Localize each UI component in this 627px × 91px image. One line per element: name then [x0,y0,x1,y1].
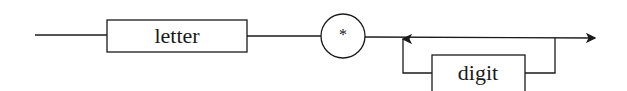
digit-loop-path [403,39,432,73]
star-node: * [321,14,365,58]
syntax-diagram: letter * digit [0,0,627,91]
letter-node: letter [107,20,247,52]
digit-loop-return [525,38,555,73]
letter-label: letter [154,23,200,48]
exit-line [365,37,595,38]
digit-node: digit [432,55,525,91]
star-label: * [339,26,347,43]
digit-label: digit [458,60,498,85]
